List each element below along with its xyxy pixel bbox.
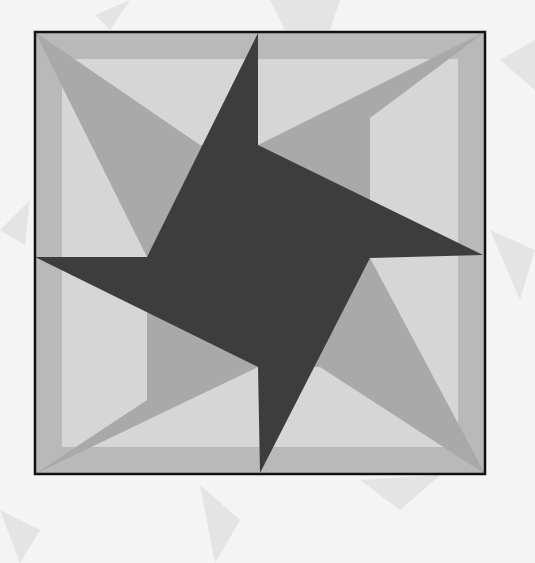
quilt-block-figure <box>0 0 535 563</box>
